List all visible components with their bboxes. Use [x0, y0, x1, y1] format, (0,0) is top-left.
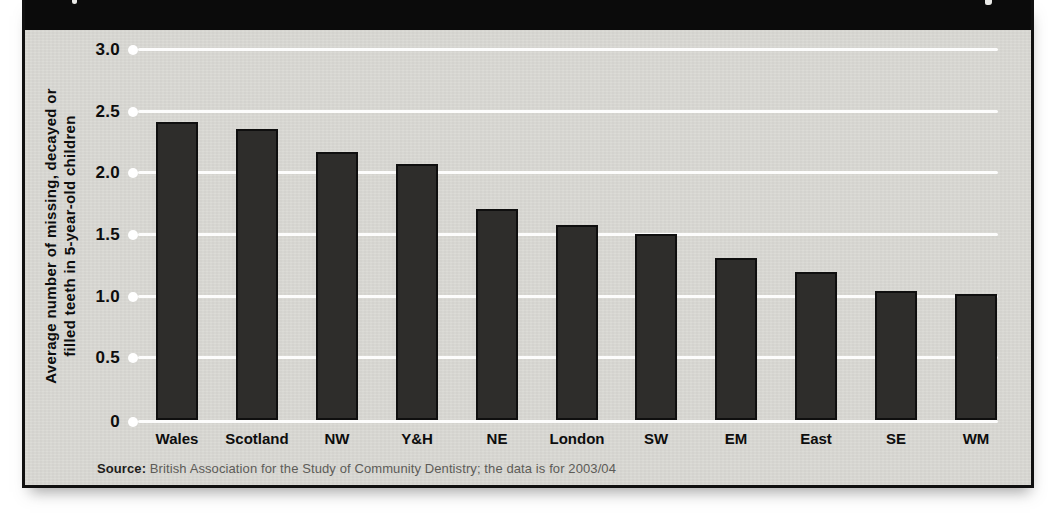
plot-area: 3.02.52.01.51.00.50WalesScotlandNWY&HNEL… [22, 0, 1034, 488]
bar-Wales [156, 122, 198, 420]
x-category-label: East [774, 431, 858, 447]
y-axis-title-line2: filled teeth in 5-year-old children [60, 46, 79, 426]
cropped-title-fragment [985, 0, 992, 5]
bar-SW [635, 234, 677, 420]
gridline-end-dot [128, 417, 138, 427]
x-category-label: Scotland [215, 431, 299, 447]
bar-Scotland [236, 129, 278, 420]
gridline [138, 420, 998, 423]
gridline [138, 48, 998, 51]
y-axis-title: Average number of missing, decayed or fi… [41, 46, 79, 426]
x-category-label: SE [854, 431, 938, 447]
gridline-end-dot [128, 353, 138, 363]
x-category-label: NE [455, 431, 539, 447]
gridline-end-dot [128, 230, 138, 240]
x-category-label: London [535, 431, 619, 447]
cropped-title-fragment [72, 0, 77, 4]
x-category-label: SW [614, 431, 698, 447]
bar-EM [715, 258, 757, 420]
x-category-label: Wales [135, 431, 219, 447]
bar-NE [476, 209, 518, 420]
x-category-label: Y&H [375, 431, 459, 447]
x-category-label: WM [934, 431, 1018, 447]
bar-SE [875, 291, 917, 420]
y-axis-title-line1: Average number of missing, decayed or [41, 46, 60, 426]
chart-figure: Average number of missing, decayed or fi… [22, 0, 1034, 488]
bar-London [556, 225, 598, 420]
source-text: British Association for the Study of Com… [146, 461, 616, 476]
bar-NW [316, 152, 358, 420]
gridline-end-dot [128, 168, 138, 178]
x-category-label: EM [694, 431, 778, 447]
gridline-end-dot [128, 292, 138, 302]
figure-header-band [22, 0, 1034, 30]
bar-WM [955, 294, 997, 420]
bar-East [795, 272, 837, 420]
source-note: Source: British Association for the Stud… [97, 460, 616, 477]
bar-Y&H [396, 164, 438, 420]
gridline-end-dot [128, 45, 138, 55]
source-label: Source: [97, 461, 146, 476]
x-category-label: NW [295, 431, 379, 447]
gridline [138, 110, 998, 113]
gridline-end-dot [128, 107, 138, 117]
